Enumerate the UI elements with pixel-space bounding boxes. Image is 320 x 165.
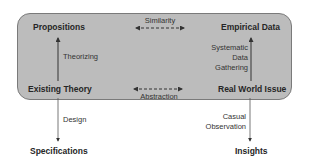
- label-systematic-data-gathering: Systematic Data Gathering: [205, 43, 248, 73]
- label-line-2: Observation: [196, 122, 246, 132]
- label-similarity: Similarity: [140, 16, 180, 26]
- label-design: Design: [63, 115, 86, 125]
- node-specifications: Specifications: [30, 146, 88, 156]
- label-line-1: Systematic: [205, 43, 248, 53]
- node-real-world-issue: Real World Issue: [218, 84, 286, 94]
- node-propositions: Propositions: [33, 22, 85, 32]
- label-line-3: Gathering: [205, 63, 248, 73]
- label-casual-observation: Casual Observation: [196, 112, 246, 132]
- node-insights: Insights: [235, 146, 268, 156]
- node-existing-theory: Existing Theory: [28, 84, 92, 94]
- label-line-2: Data: [205, 53, 248, 63]
- label-line-1: Casual: [196, 112, 246, 122]
- node-empirical-data: Empirical Data: [221, 22, 280, 32]
- label-abstraction: Abstraction: [134, 92, 184, 102]
- label-theorizing: Theorizing: [63, 52, 98, 62]
